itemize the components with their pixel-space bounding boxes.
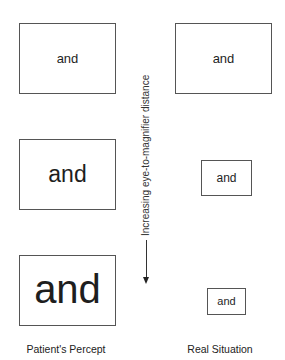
percept-box-3: and xyxy=(19,255,116,326)
percept-box-2: and xyxy=(19,139,116,210)
percept-box-1: and xyxy=(19,23,116,94)
distance-arrow-line xyxy=(146,240,147,279)
real-word-1: and xyxy=(213,52,235,65)
real-box-1: and xyxy=(175,23,272,94)
arrow-down-icon xyxy=(143,277,149,284)
real-word-2: and xyxy=(216,172,236,184)
real-box-3: and xyxy=(207,288,246,315)
percept-word-1: and xyxy=(57,52,79,65)
percept-word-3: and xyxy=(34,269,101,309)
real-column-label: Real Situation xyxy=(187,343,252,355)
percept-column-label: Patient's Percept xyxy=(26,343,105,355)
percept-word-2: and xyxy=(48,163,86,186)
real-box-2: and xyxy=(201,160,252,196)
distance-axis-label: Increasing eye-to-magnifier distance xyxy=(140,75,151,236)
real-word-3: and xyxy=(217,296,235,307)
